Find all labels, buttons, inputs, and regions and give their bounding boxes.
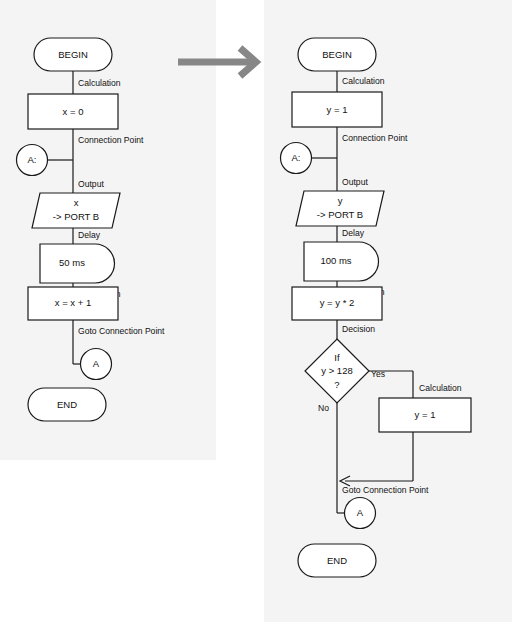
right-node-goto-a[interactable]: A (345, 498, 376, 529)
right-output-label-line2: -> PORT B (317, 209, 363, 220)
right-reset-label: y = 1 (415, 409, 436, 420)
left-calc1-label: x = 0 (63, 106, 84, 117)
right-node-connector-a[interactable]: A: (281, 143, 312, 174)
left-delay-label: 50 ms (59, 257, 85, 268)
left-edge-label-calculation-1: Calculation (78, 78, 121, 88)
left-calc2-label: x = x + 1 (55, 297, 91, 308)
right-edge-label-decision: Decision (342, 324, 375, 334)
right-node-output[interactable]: y -> PORT B (296, 191, 384, 226)
right-edge-label-goto: Goto Connection Point (342, 485, 429, 495)
right-node-begin[interactable]: BEGIN (298, 38, 376, 71)
right-edge-label-output: Output (342, 177, 368, 187)
transition-arrow-icon (178, 48, 256, 76)
left-node-end[interactable]: END (28, 388, 106, 421)
left-node-connector-a[interactable]: A: (17, 145, 48, 176)
left-goto-a-label: A (93, 358, 100, 369)
right-node-decision[interactable]: If y > 128 ? (305, 339, 369, 403)
left-end-label: END (57, 399, 77, 410)
left-node-calculation-1[interactable]: x = 0 (28, 94, 118, 129)
right-branch-label-no: No (318, 403, 329, 413)
right-begin-label: BEGIN (322, 49, 352, 60)
left-node-output[interactable]: x -> PORT B (32, 193, 120, 228)
right-node-delay[interactable]: 100 ms (304, 242, 379, 281)
right-end-label: END (327, 555, 347, 566)
left-node-delay[interactable]: 50 ms (40, 244, 115, 283)
right-node-calculation-1[interactable]: y = 1 (292, 92, 382, 127)
left-output-label-line2: -> PORT B (53, 211, 99, 222)
left-node-begin[interactable]: BEGIN (34, 38, 112, 71)
left-node-goto-a[interactable]: A (81, 349, 112, 380)
right-edge-label-delay: Delay (342, 228, 365, 238)
left-edge-label-goto: Goto Connection Point (78, 326, 165, 336)
right-node-calculation-2[interactable]: y = y * 2 (292, 287, 382, 320)
right-decision-label-line1: If (334, 352, 340, 363)
right-decision-label-line3: ? (334, 379, 339, 390)
right-delay-label: 100 ms (320, 255, 351, 266)
right-decision-label-line2: y > 128 (321, 365, 352, 376)
left-output-label-line1: x (74, 197, 79, 208)
flowchart-comparison-figure: BEGIN Calculation x = 0 Connection Point… (0, 0, 528, 622)
right-calc2-label: y = y * 2 (320, 297, 355, 308)
left-connector-a-label: A: (28, 154, 37, 165)
right-goto-a-label: A (357, 507, 364, 518)
left-edge-label-output: Output (78, 179, 104, 189)
left-node-calculation-2[interactable]: x = x + 1 (28, 287, 118, 320)
right-node-reset[interactable]: y = 1 (379, 398, 471, 432)
left-edge-label-connection-point: Connection Point (78, 135, 144, 145)
right-output-label-line1: y (338, 195, 343, 206)
right-edge-label-calculation-1: Calculation (342, 76, 385, 86)
right-node-end[interactable]: END (298, 544, 376, 577)
right-calc1-label: y = 1 (327, 104, 348, 115)
right-edge-label-calculation-3: Calculation (419, 383, 462, 393)
left-begin-label: BEGIN (58, 49, 88, 60)
right-branch-label-yes: Yes (371, 369, 385, 379)
left-edge-label-delay: Delay (78, 230, 101, 240)
right-connector-a-label: A: (292, 152, 301, 163)
right-edge-label-connection-point: Connection Point (342, 133, 408, 143)
